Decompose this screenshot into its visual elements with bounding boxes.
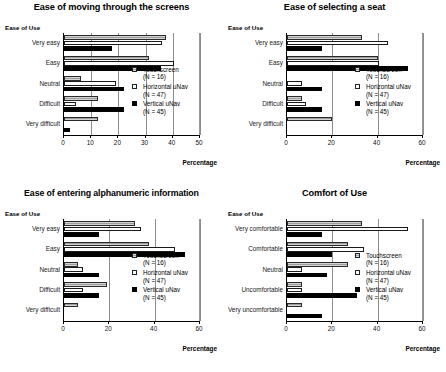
bar-horiz: [64, 267, 83, 272]
chart-legend: Touchscreen(N = 16)Horizontal uNav(N = 4…: [132, 252, 188, 304]
bar-vert: [287, 252, 332, 257]
bar-touch: [287, 303, 302, 308]
bar-vert: [64, 273, 99, 278]
x-tick: [145, 135, 146, 138]
x-tick: [90, 135, 91, 138]
bar-vert: [64, 107, 124, 112]
x-tick: [331, 321, 332, 324]
x-tick-label: 60: [418, 139, 425, 146]
category-label: Very easy: [0, 39, 60, 46]
legend-sample-size: (N = 45): [143, 108, 188, 115]
bar-touch: [64, 35, 166, 40]
gridline: [200, 219, 201, 321]
bar-touch: [64, 303, 78, 308]
category-label: Difficult: [0, 286, 60, 293]
bar-touch: [287, 242, 348, 247]
plot-right-border: [199, 33, 200, 135]
x-tick: [199, 321, 200, 324]
bar-horiz: [287, 247, 364, 252]
x-axis-ticks: 0204060: [286, 321, 422, 335]
legend-item-horiz: Horizontal uNav(N = 47): [355, 269, 411, 284]
x-tick-label: 60: [195, 325, 202, 332]
legend-label: Touchscreen: [366, 252, 411, 259]
category-label: Very easy: [223, 39, 283, 46]
bar-group: [287, 115, 422, 135]
category-label: Easy: [223, 59, 283, 66]
legend-sample-size: (N = 45): [143, 294, 188, 301]
category-label: Easy: [0, 245, 60, 252]
bar-group: [64, 219, 199, 239]
legend-swatch-horiz-icon: [132, 270, 137, 275]
legend-sample-size: (N = 16): [366, 73, 411, 80]
legend-label: Vertical uNav: [143, 100, 188, 107]
x-tick-label: 50: [195, 139, 202, 146]
x-tick-label: 40: [373, 325, 380, 332]
category-label: Neutral: [0, 80, 60, 87]
bar-touch: [64, 96, 98, 101]
legend-label: Vertical uNav: [366, 100, 411, 107]
category-label: Very comfortable: [223, 225, 283, 232]
category-label: Neutral: [223, 80, 283, 87]
legend-label: Horizontal uNav: [366, 83, 411, 90]
x-axis-ticks: 0204060: [286, 135, 422, 149]
bar-horiz: [64, 227, 141, 232]
bar-vert: [287, 107, 322, 112]
x-axis-label: Percentage: [406, 345, 440, 352]
chart-title: Ease of selecting a seat: [223, 2, 446, 13]
legend-label: Touchscreen: [143, 252, 188, 259]
x-tick: [108, 321, 109, 324]
legend-label: Horizontal uNav: [366, 269, 411, 276]
chart-title: Comfort of Use: [223, 188, 446, 199]
bar-touch: [287, 262, 348, 267]
legend-sample-size: (N = 47): [143, 277, 188, 284]
bar-horiz: [287, 227, 408, 232]
category-label: Very difficult: [0, 120, 60, 127]
bar-vert: [64, 46, 112, 51]
legend-sample-size: (N = 47): [366, 91, 411, 98]
bar-horiz: [287, 288, 302, 293]
bar-touch: [64, 56, 149, 61]
figure-grid: Ease of moving through the screensEase o…: [0, 0, 446, 372]
bar-touch: [287, 282, 302, 287]
x-tick-label: 20: [114, 139, 121, 146]
bar-horiz: [287, 102, 306, 107]
x-tick-label: 0: [61, 139, 65, 146]
chart-legend: Touchscreen(N = 16)Horizontal uNav(N = 4…: [355, 252, 411, 304]
x-tick: [172, 135, 173, 138]
x-tick-label: 20: [105, 325, 112, 332]
x-tick-label: 0: [61, 325, 65, 332]
gridline: [200, 33, 201, 135]
legend-item-vert: Vertical uNav(N = 45): [355, 100, 411, 115]
bar-vert: [64, 87, 124, 92]
bar-group: [64, 301, 199, 321]
legend-swatch-vert-icon: [355, 101, 360, 106]
bar-horiz: [64, 102, 76, 107]
legend-item-touch: Touchscreen(N = 16): [355, 252, 411, 267]
chart-panel-4: Comfort of UseEase of UseVery comfortabl…: [223, 186, 446, 372]
x-axis-ticks: 0204060: [63, 321, 199, 335]
bar-vert: [64, 128, 70, 133]
x-tick: [422, 135, 423, 138]
x-tick-label: 0: [284, 325, 288, 332]
category-label: Difficult: [0, 100, 60, 107]
bar-group: [64, 115, 199, 135]
y-axis-label: Ease of Use: [5, 210, 40, 217]
bar-horiz: [64, 61, 174, 66]
y-axis-label: Ease of Use: [228, 210, 263, 217]
legend-label: Horizontal uNav: [143, 83, 188, 90]
legend-item-horiz: Horizontal uNav(N = 47): [355, 83, 411, 98]
chart-legend: Touchscreen(N = 16)Horizontal uNav(N = 4…: [355, 66, 411, 118]
x-axis-label: Percentage: [183, 345, 217, 352]
legend-item-touch: Touchscreen(N = 16): [132, 252, 188, 267]
bar-touch: [287, 117, 332, 122]
category-label: Easy: [0, 59, 60, 66]
bar-vert: [287, 46, 322, 51]
bar-group: [287, 33, 422, 53]
x-tick-label: 40: [373, 139, 380, 146]
legend-swatch-horiz-icon: [132, 84, 137, 89]
x-tick-label: 40: [168, 139, 175, 146]
bar-touch: [64, 242, 149, 247]
bar-touch: [64, 282, 107, 287]
x-tick: [286, 321, 287, 324]
chart-panel-3: Ease of entering alphanumeric informatio…: [0, 186, 223, 372]
